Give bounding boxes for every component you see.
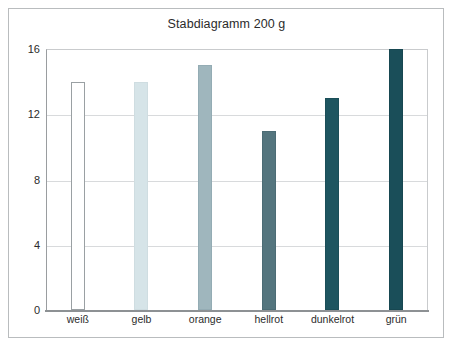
bar-slot	[237, 49, 301, 310]
bar-slot	[110, 49, 174, 310]
bar-series	[46, 49, 428, 310]
chart-figure: Stabdiagramm 200 g 0481216 weißgelborang…	[0, 0, 453, 351]
bar[interactable]	[198, 65, 212, 310]
bar-slot	[46, 49, 110, 310]
x-tick-label: hellrot	[255, 313, 284, 325]
x-tick-label: grün	[386, 313, 407, 325]
bar[interactable]	[325, 98, 339, 310]
x-tick-label: weiß	[67, 313, 89, 325]
bar-slot	[301, 49, 365, 310]
chart-title: Stabdiagramm 200 g	[0, 17, 453, 31]
bar[interactable]	[134, 82, 148, 310]
y-axis-tick-labels: 0481216	[0, 0, 40, 351]
x-axis-tick-labels: weißgelborangehellrotdunkelrotgrün	[46, 313, 428, 335]
y-tick-label: 12	[6, 108, 40, 120]
y-tick-label: 4	[6, 239, 40, 251]
bar[interactable]	[389, 49, 403, 310]
x-axis-line	[45, 310, 429, 312]
y-tick-label: 0	[6, 304, 40, 316]
y-tick-label: 8	[6, 174, 40, 186]
y-tick-label: 16	[6, 43, 40, 55]
x-tick-label: gelb	[132, 313, 152, 325]
bar[interactable]	[262, 131, 276, 310]
x-tick-label: orange	[189, 313, 222, 325]
bar-slot	[173, 49, 237, 310]
bar-slot	[364, 49, 428, 310]
x-tick-label: dunkelrot	[311, 313, 354, 325]
bar[interactable]	[71, 82, 85, 310]
